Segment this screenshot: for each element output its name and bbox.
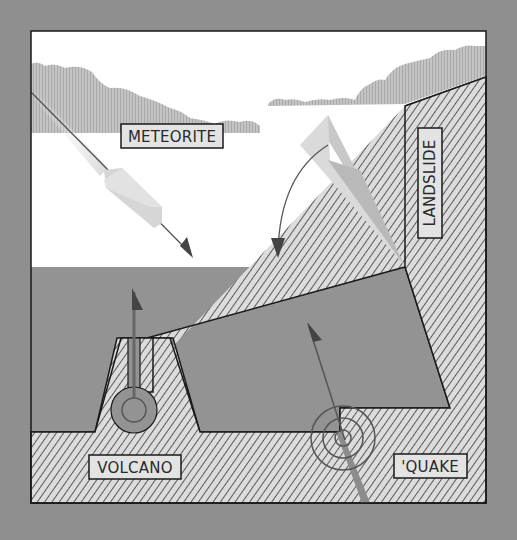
label-volcano: VOLCANO	[89, 455, 181, 479]
label-meteorite: METEORITE	[121, 124, 223, 148]
label-landslide-text: LANDSLIDE	[421, 140, 439, 227]
label-meteorite-text: METEORITE	[128, 128, 216, 146]
label-landslide: LANDSLIDE	[418, 128, 442, 238]
label-quake-text: 'QUAKE	[401, 458, 459, 476]
label-quake: 'QUAKE	[394, 454, 467, 478]
label-volcano-text: VOLCANO	[97, 459, 172, 477]
tsunami-causes-diagram: METEORITE LANDSLIDE VOLCANO 'QUAKE	[0, 0, 517, 540]
